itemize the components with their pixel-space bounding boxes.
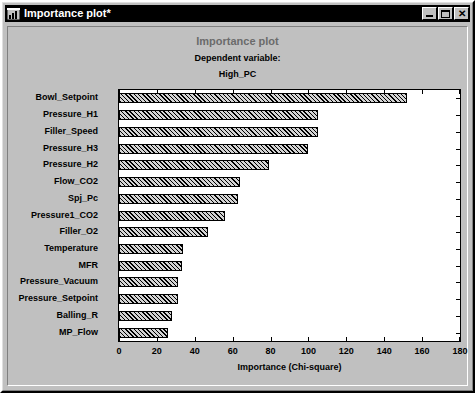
category-label-pressure-h3: Pressure_H3	[43, 143, 98, 153]
category-label-pressure-vacuum: Pressure_Vacuum	[20, 276, 98, 286]
bar-pressure1-co2[interactable]	[119, 211, 225, 221]
chart-subtitle-dependent-variable-value: High_PC	[8, 69, 467, 79]
bar-mp-flow[interactable]	[119, 328, 168, 338]
chart-subtitle-dependent-variable-label: Dependent variable:	[8, 53, 467, 63]
bar-bowl-setpoint[interactable]	[119, 93, 407, 103]
x-tick-label-80: 80	[266, 346, 276, 356]
x-tick-label-0: 0	[116, 346, 121, 356]
chart-title: Importance plot	[8, 35, 467, 47]
category-label-pressure1-co2: Pressure1_CO2	[31, 210, 98, 220]
category-label-pressure-h1: Pressure_H1	[43, 109, 98, 119]
window-controls: ✕	[422, 7, 469, 20]
bar-pressure-h1[interactable]	[119, 110, 318, 120]
bar-filler-speed[interactable]	[119, 127, 318, 137]
category-label-flow-co2: Flow_CO2	[54, 176, 98, 186]
x-tick-label-120: 120	[339, 346, 354, 356]
maximize-button[interactable]	[438, 7, 453, 20]
bar-pressure-setpoint[interactable]	[119, 294, 178, 304]
category-label-bowl-setpoint: Bowl_Setpoint	[36, 92, 99, 102]
x-tick-label-20: 20	[152, 346, 162, 356]
category-label-mfr: MFR	[79, 260, 99, 270]
title-bar[interactable]: Importance plot* ✕	[5, 5, 470, 22]
x-tick-label-180: 180	[452, 346, 467, 356]
minimize-button[interactable]	[422, 7, 437, 20]
category-label-filler-o2: Filler_O2	[59, 226, 98, 236]
category-label-filler-speed: Filler_Speed	[44, 126, 98, 136]
x-tick-label-100: 100	[301, 346, 316, 356]
x-tick-label-60: 60	[228, 346, 238, 356]
window-title: Importance plot*	[24, 7, 422, 20]
bar-series	[119, 90, 460, 341]
bar-filler-o2[interactable]	[119, 227, 208, 237]
category-label-temperature: Temperature	[44, 243, 98, 253]
bar-flow-co2[interactable]	[119, 177, 240, 187]
maximize-icon	[441, 10, 450, 18]
bar-pressure-h2[interactable]	[119, 160, 269, 170]
category-label-mp-flow: MP_Flow	[59, 327, 98, 337]
plot-window: Importance plot* ✕ Importance plot Depen…	[0, 0, 475, 393]
bar-balling-r[interactable]	[119, 311, 172, 321]
bar-pressure-h3[interactable]	[119, 144, 308, 154]
bar-spj-pc[interactable]	[119, 194, 238, 204]
bar-pressure-vacuum[interactable]	[119, 277, 178, 287]
category-label-balling-r: Balling_R	[56, 310, 98, 320]
category-label-pressure-setpoint: Pressure_Setpoint	[18, 293, 98, 303]
chart-window-icon	[7, 7, 21, 20]
close-icon: ✕	[458, 9, 466, 19]
plot-area	[118, 89, 461, 342]
category-label-spj-pc: Spj_Pc	[68, 193, 98, 203]
x-tick-label-160: 160	[415, 346, 430, 356]
bar-mfr[interactable]	[119, 261, 182, 271]
category-label-pressure-h2: Pressure_H2	[43, 159, 98, 169]
minimize-icon	[426, 15, 433, 17]
x-tick-label-40: 40	[190, 346, 200, 356]
x-axis-title: Importance (Chi-square)	[118, 362, 461, 372]
bar-temperature[interactable]	[119, 244, 183, 254]
chart-client-area: Importance plot Dependent variable: High…	[7, 26, 468, 386]
close-button[interactable]: ✕	[454, 7, 469, 20]
x-tick-label-140: 140	[377, 346, 392, 356]
